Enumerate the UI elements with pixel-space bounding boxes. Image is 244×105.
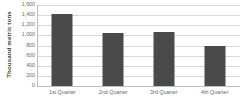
- bar-slot: [139, 5, 190, 86]
- y-axis-title-label: Thousand metric tons: [5, 11, 12, 78]
- y-axis-tick-label: 0: [32, 83, 35, 88]
- y-axis-tick-label: 1,400: [22, 12, 35, 17]
- y-axis-tick-labels: 02004006008001,0001,2001,4001,600: [14, 0, 36, 88]
- y-axis-tick-label: 1,000: [22, 33, 35, 38]
- y-axis-tick-label: 200: [26, 73, 35, 78]
- y-axis-tick-label: 800: [26, 43, 35, 48]
- bar-slot: [189, 5, 240, 86]
- x-axis-tick-label: 1st Quarter: [49, 90, 76, 95]
- bars: [37, 5, 240, 86]
- y-axis-tick-label: 1,200: [22, 23, 35, 28]
- bar-slot: [88, 5, 139, 86]
- gridline: [37, 86, 240, 87]
- plot-area: [37, 5, 240, 86]
- x-axis-tick-label: 4th Quarter: [201, 90, 228, 95]
- y-axis-tick-label: 400: [26, 63, 35, 68]
- bar: [153, 32, 174, 86]
- bar: [204, 46, 225, 86]
- x-axis-tick-label: 2nd Quarter: [99, 90, 128, 95]
- x-axis-tick-labels: 1st Quarter2nd Quarter3rd Quarter4th Qua…: [37, 90, 240, 102]
- y-axis-tick-label: 600: [26, 53, 35, 58]
- x-axis-tick-label: 3rd Quarter: [150, 90, 178, 95]
- y-axis-tick-label: 1,600: [22, 2, 35, 7]
- bar: [52, 14, 73, 86]
- bar-slot: [37, 5, 88, 86]
- bar-chart: Thousand metric tons 02004006008001,0001…: [0, 0, 244, 105]
- bar: [103, 33, 124, 86]
